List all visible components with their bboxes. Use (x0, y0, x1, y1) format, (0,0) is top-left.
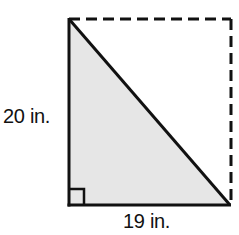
height-label: 20 in. (3, 106, 50, 126)
base-label: 19 in. (123, 211, 170, 231)
